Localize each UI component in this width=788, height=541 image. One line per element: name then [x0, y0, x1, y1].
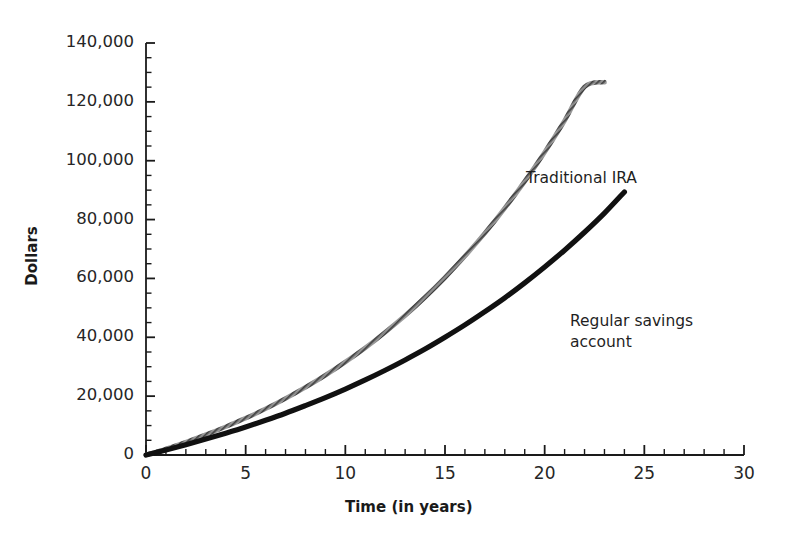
y-axis-ticks	[146, 43, 155, 455]
x-tick-label: 0	[121, 463, 171, 483]
x-tick-label: 10	[320, 463, 370, 483]
x-axis-title: Time (in years)	[345, 498, 473, 516]
y-tick-label: 20,000	[0, 385, 134, 404]
y-tick-label: 60,000	[0, 267, 134, 286]
x-tick-label: 20	[520, 463, 570, 483]
data-series-group	[146, 82, 624, 455]
y-tick-label: 120,000	[0, 91, 134, 110]
y-tick-label: 40,000	[0, 326, 134, 345]
x-tick-label: 30	[719, 463, 769, 483]
y-tick-label: 140,000	[0, 32, 134, 51]
annotation-regular-savings-line1: Regular savings	[570, 312, 693, 330]
x-tick-label: 25	[619, 463, 669, 483]
chart-figure: Dollars Time (in years) 020,00040,00060,…	[0, 0, 788, 541]
series-line-regular-savings	[146, 192, 624, 455]
x-tick-label: 5	[221, 463, 271, 483]
series-line-traditional-ira-edge	[146, 82, 604, 455]
annotation-regular-savings: Regular savingsaccount	[570, 311, 693, 353]
y-tick-label: 100,000	[0, 150, 134, 169]
y-tick-label: 80,000	[0, 209, 134, 228]
series-line-traditional-ira	[146, 82, 604, 455]
annotation-traditional-ira: Traditional IRA	[526, 168, 637, 189]
axis-spines	[146, 43, 744, 455]
y-tick-label: 0	[0, 444, 134, 463]
x-tick-label: 15	[420, 463, 470, 483]
annotation-regular-savings-line2: account	[570, 333, 632, 351]
x-axis-ticks	[146, 445, 744, 455]
